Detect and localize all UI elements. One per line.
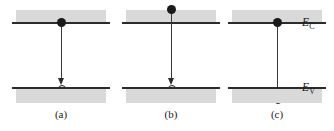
panel-b: (b) (122, 0, 220, 131)
conduction-band-subscript: C (309, 22, 314, 31)
transition-arrow-stem-a (61, 22, 62, 82)
transition-arrow-head-b (168, 78, 174, 85)
electron-marker-a (57, 18, 66, 27)
valence-band-shade-b (126, 89, 216, 103)
panel-caption-a: (a) (12, 108, 110, 120)
transition-arrow-stem-c (277, 22, 278, 94)
panel-a: (a) (12, 0, 110, 131)
conduction-band-label: EC (302, 16, 314, 28)
panel-caption-c: (c) (228, 108, 326, 120)
band-diagram-figure: (a) (b) (c) EC EV (0, 0, 334, 131)
electron-marker-c (273, 18, 282, 27)
valence-band-symbol: E (302, 81, 309, 93)
valence-band-shade-a (16, 89, 106, 103)
transition-arrow-stem-b (171, 10, 172, 82)
valence-band-label: EV (302, 81, 315, 93)
panel-caption-b: (b) (122, 108, 220, 120)
transition-arrow-head-a (58, 78, 64, 85)
electron-marker-b (167, 5, 176, 14)
valence-band-subscript: V (309, 87, 315, 96)
conduction-band-symbol: E (302, 16, 309, 28)
